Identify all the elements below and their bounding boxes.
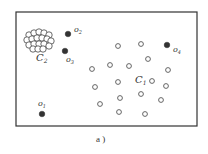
outlier-o3-label: o3 xyxy=(66,55,74,65)
cluster-point xyxy=(90,67,95,72)
outlier-o1-label: o1 xyxy=(38,99,46,109)
cluster-point xyxy=(166,68,171,73)
outlier-o2-point xyxy=(65,31,71,37)
cluster-c2-label: C2 xyxy=(36,52,48,64)
cluster-point xyxy=(139,92,144,97)
outlier-o3-point xyxy=(62,48,68,54)
cluster-point xyxy=(139,42,144,47)
cluster-point xyxy=(116,44,121,49)
cluster-c1-label: C1 xyxy=(135,74,146,86)
outlier-o2-label: o2 xyxy=(74,25,82,35)
figure-caption: a ) xyxy=(96,134,105,144)
cluster-point xyxy=(143,112,148,117)
outlier-o4-label: o4 xyxy=(173,45,181,55)
cluster-point xyxy=(108,63,113,68)
cluster-point xyxy=(164,84,169,89)
outlier-points xyxy=(39,31,170,117)
cluster-point xyxy=(116,80,121,85)
cluster-point xyxy=(117,110,122,115)
cluster-diagram: C1 C2 o1 o2 o3 o4 a ) xyxy=(0,0,208,154)
cluster-point xyxy=(46,43,52,49)
cluster-point xyxy=(150,79,155,84)
cluster-point xyxy=(146,57,151,62)
outlier-o1-point xyxy=(39,111,45,117)
cluster-point xyxy=(159,98,164,103)
cluster-point xyxy=(93,85,98,90)
cluster-c1-points xyxy=(90,42,171,117)
cluster-point xyxy=(98,102,103,107)
cluster-c2-points xyxy=(24,29,54,52)
outlier-o4-point xyxy=(164,42,170,48)
cluster-point xyxy=(118,96,123,101)
cluster-point xyxy=(127,64,132,69)
